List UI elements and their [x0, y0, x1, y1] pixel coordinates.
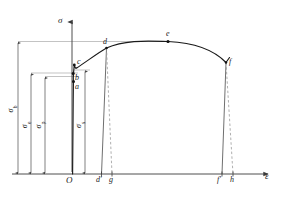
sigma-e-subscript: e — [26, 122, 32, 124]
recovery-line-f-to-h — [226, 63, 233, 175]
stress-dimension-arrows — [18, 43, 85, 173]
curve-strain-hardening-and-necking — [77, 41, 226, 68]
tick-label-g: g — [109, 176, 113, 184]
tick-label-d-prime: d′ — [96, 176, 102, 184]
stress-strain-figure: σ ε O a b c d e f d′ g f′ h σb σe σp σs — [0, 0, 281, 203]
recovery-line-d-to-g — [107, 48, 113, 174]
marker-point-c — [73, 64, 76, 67]
sigma-p-symbol: σ — [34, 124, 43, 128]
sigma-e-symbol: σ — [20, 124, 29, 128]
stress-label-sigma-b: σb — [7, 106, 17, 113]
point-label-a: a — [75, 83, 79, 91]
stress-label-sigma-s: σs — [75, 122, 85, 128]
figure-canvas — [0, 0, 281, 203]
sigma-s-subscript: s — [80, 122, 86, 124]
point-label-c: c — [77, 58, 81, 66]
y-axis-label: σ — [58, 16, 62, 25]
point-label-b: b — [75, 74, 79, 82]
unload-line-f-to-fprime — [222, 63, 226, 175]
curve-point-markers — [72, 40, 228, 83]
point-label-f: f — [229, 58, 231, 66]
curve-elastic-region — [73, 72, 74, 174]
tick-label-h: h — [230, 176, 234, 184]
unload-line-d-to-dprime — [102, 48, 107, 174]
tick-label-f-prime: f′ — [217, 176, 221, 184]
marker-point-e — [166, 40, 169, 43]
x-axis-label: ε — [265, 172, 269, 181]
stress-strain-curve — [73, 41, 230, 174]
stress-label-sigma-p: σp — [35, 122, 45, 129]
point-label-d: d — [103, 38, 107, 46]
stress-label-sigma-e: σe — [21, 122, 31, 128]
sigma-b-symbol: σ — [6, 108, 15, 112]
point-label-e: e — [166, 30, 170, 38]
axes-group — [12, 22, 268, 174]
origin-label: O — [66, 176, 73, 185]
sigma-s-symbol: σ — [74, 124, 83, 128]
sigma-p-subscript: p — [40, 122, 46, 125]
marker-point-f — [225, 61, 227, 63]
unloading-lines — [102, 48, 234, 174]
marker-point-d — [105, 47, 108, 50]
sigma-b-subscript: b — [12, 106, 18, 109]
stress-guide-lines — [18, 42, 170, 77]
